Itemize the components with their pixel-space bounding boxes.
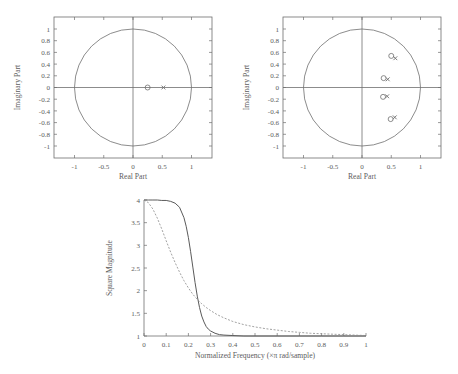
y-tick-label: -0.8 [268,131,280,139]
x-tick-label: 0.7 [295,341,304,349]
x-tick-label: 0.8 [317,341,326,349]
x-tick-label: 0.3 [206,341,215,349]
y-tick-label: 1 [46,26,50,34]
x-tick-label: 0.9 [339,341,348,349]
pole-zero-svg-2: -1-0.500.5110.80.60.40.20-0.2-0.4-0.6-0.… [229,4,458,190]
axis-tick-labels-2: -1-0.500.5110.80.60.40.20-0.2-0.4-0.6-0.… [268,26,423,171]
y-tick-label: -0.2 [39,96,51,104]
pole-zero-svg-1: -1-0.500.5110.80.60.40.20-0.2-0.4-0.6-0.… [0,4,229,190]
x-tick-label: -0.5 [98,163,110,171]
x-tick-label: 0 [142,341,146,349]
y-tick-label: 1 [275,26,279,34]
y-tick-label: 0.4 [270,61,279,69]
x-tick-label: 1 [419,163,423,171]
y-tick-label: -0.2 [268,96,280,104]
series-line-dashed [144,200,366,336]
zero-marker [381,94,386,99]
magnitude-svg: 00.10.20.30.40.50.60.70.80.9111.522.533.… [100,190,380,374]
x-tick-label: 0.5 [387,163,396,171]
y-axis-label-1: Imaginary Part [13,64,22,110]
x-tick-label: 0.5 [158,163,167,171]
x-axis-label-1: Real Part [119,172,148,181]
x-tick-label: 0 [131,163,135,171]
y-tick-label: -0.4 [268,108,280,116]
x-tick-label: 0.4 [228,341,237,349]
figure-canvas: -1-0.500.5110.80.60.40.20-0.2-0.4-0.6-0.… [0,0,458,374]
x-tick-label: 0.6 [273,341,282,349]
y-tick-label: 0.6 [41,49,50,57]
y-tick-label: -0.8 [39,131,51,139]
y-tick-label: -0.6 [39,119,51,127]
y-tick-label: 2.5 [131,265,140,273]
x-axis-label-3: Normalized Frequency (×π rad/sample) [195,351,316,360]
x-axis-label-2: Real Part [348,172,377,181]
zero-marker [388,117,393,122]
y-axis-label-2: Imaginary Part [242,64,251,110]
y-tick-label: -1 [44,143,50,151]
y-tick-label: 0.8 [41,37,50,45]
y-tick-label: 0 [46,84,50,92]
zero-marker [381,76,386,81]
y-tick-label: 1.5 [131,310,140,318]
y-tick-label: 4 [136,197,140,205]
x-tick-label: -1 [72,163,78,171]
y-tick-label: 0.6 [270,49,279,57]
y-tick-label: 0.8 [270,37,279,45]
y-tick-label: 3.5 [131,219,140,227]
square-magnitude-chart: 00.10.20.30.40.50.60.70.80.9111.522.533.… [100,190,380,374]
axis-tick-labels-1: -1-0.500.5110.80.60.40.20-0.2-0.4-0.6-0.… [39,26,194,171]
y-tick-label: 3 [136,242,140,250]
y-tick-label: 0 [275,84,279,92]
x-tick-label: 0.5 [251,341,260,349]
pole-zero-plot-2: -1-0.500.5110.80.60.40.20-0.2-0.4-0.6-0.… [229,4,458,190]
y-tick-label: -0.4 [39,108,51,116]
x-tick-label: 0.1 [162,341,171,349]
y-tick-label: -0.6 [268,119,280,127]
pole-zero-plot-1: -1-0.500.5110.80.60.40.20-0.2-0.4-0.6-0.… [0,4,229,190]
zero-marker [389,53,394,58]
y-tick-label: 0.2 [270,72,279,80]
y-tick-label: 0.2 [41,72,50,80]
y-tick-label: 2 [136,287,140,295]
x-tick-label: 1 [364,341,368,349]
x-tick-label: -1 [301,163,307,171]
y-axis-label-3: Square Magnitude [105,239,114,296]
x-tick-label: -0.5 [327,163,339,171]
x-tick-label: 1 [190,163,194,171]
y-tick-label: 1 [136,333,140,341]
y-tick-label: 0.4 [41,61,50,69]
x-tick-label: 0.2 [184,341,193,349]
y-tick-label: -1 [273,143,279,151]
x-tick-label: 0 [360,163,364,171]
